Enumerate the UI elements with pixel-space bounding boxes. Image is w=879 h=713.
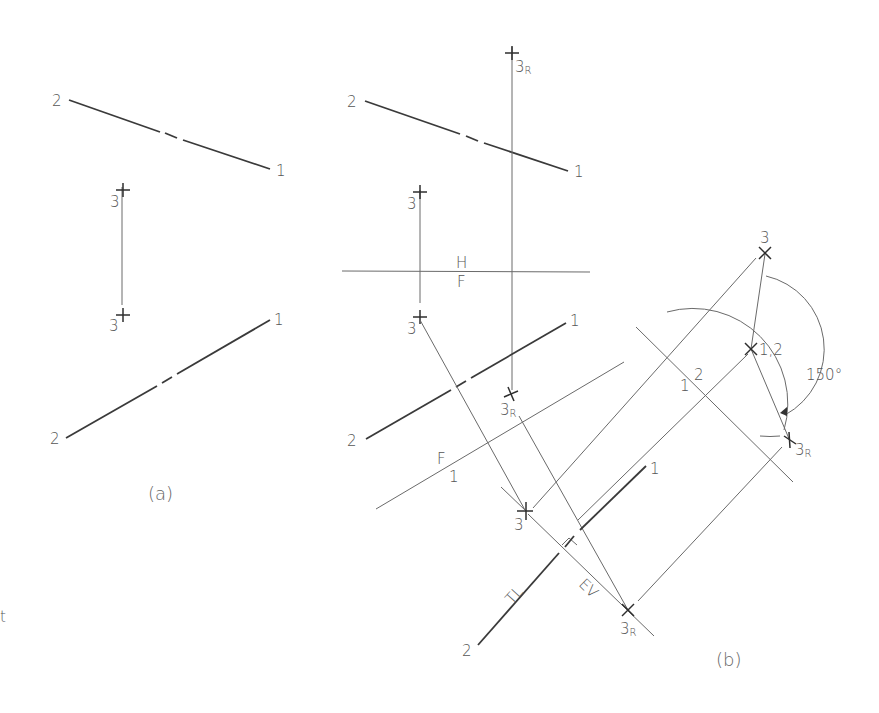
end-view-point3r-label: 3R (795, 441, 812, 459)
rotation-arc-tick (760, 436, 780, 437)
rotation-angle-label: 150° (806, 366, 842, 384)
stray-mark: t (0, 608, 6, 626)
aux-point3r-label: 3R (620, 620, 637, 638)
end-view: 3 1,2 3R 150° (667, 229, 842, 459)
rotation-arc-outer (667, 308, 788, 430)
view-a-point3-bottom-label: 3 (109, 317, 119, 335)
view-a-bottom-label-2: 2 (50, 430, 60, 448)
view-a-top-line: 2 1 (52, 92, 286, 180)
projector-aux12-to-end (578, 354, 748, 520)
view-b-point3-top-label: 3 (407, 195, 417, 213)
ev-line (528, 514, 654, 636)
fold-12-left-label: 1 (680, 377, 690, 395)
view-b-point3r-projector: 3R (505, 46, 532, 390)
view-a-top-label-2: 2 (52, 92, 62, 110)
fold-f1-lower-label: 1 (449, 468, 459, 486)
fold-12-right-label: 2 (694, 366, 704, 384)
caption-b: (b) (716, 649, 741, 670)
view-a-top-label-1: 1 (276, 162, 286, 180)
angle-arrow-icon (780, 407, 787, 416)
view-b: 2 1 3 3R H F 3 (342, 46, 842, 670)
view-b-point3r-top-label: 3R (515, 58, 532, 76)
view-b-point3r-front: 3R (500, 387, 518, 419)
view-b-front-line: 2 1 (347, 312, 580, 450)
view-b-top-line: 2 1 (347, 93, 584, 181)
ev-label: EV (575, 575, 602, 602)
view-b-top-label-2: 2 (347, 93, 357, 111)
view-a-point3: 3 3 (109, 183, 130, 335)
view-b-point3-top: 3 (407, 185, 427, 303)
view-b-point3-front-label: 3 (407, 320, 417, 338)
view-a-bottom-label-1: 1 (274, 311, 284, 329)
end-view-point3-label: 3 (760, 229, 770, 247)
fold-line-hf: H F (342, 254, 590, 291)
view-b-top-label-1: 1 (574, 163, 584, 181)
tl-label: TL (502, 583, 527, 608)
fold-hf-upper-label: H (456, 254, 467, 272)
end-view-point12-label: 1,2 (759, 341, 783, 359)
aux-point3r: 3R (620, 604, 637, 638)
fold-hf-lower-label: F (457, 273, 466, 291)
view-b-front-label-2: 2 (347, 432, 357, 450)
view-a-point3-top-label: 3 (110, 193, 120, 211)
fold-f1-upper-label: F (437, 450, 446, 468)
view-b-point3-front: 3 (407, 310, 427, 338)
aux-label-1: 1 (650, 460, 660, 478)
aux-label-2: 2 (462, 642, 472, 660)
view-a: 2 1 3 3 2 1 (a) (50, 92, 286, 504)
view-b-front-label-1: 1 (570, 312, 580, 330)
descriptive-geometry-figure: 2 1 3 3 2 1 (a) t 2 (0, 0, 879, 713)
view-a-bottom-line: 2 1 (50, 311, 284, 448)
view-b-point3r-front-label: 3R (500, 401, 517, 419)
aux-point3-label: 3 (514, 516, 524, 534)
projector-aux3-to-end (533, 258, 756, 508)
fold-line-f1: F 1 (376, 362, 624, 509)
projector-aux3r-to-end (638, 447, 782, 601)
caption-a: (a) (148, 483, 173, 504)
aux-point3: 3 (501, 487, 533, 534)
end-view-line-12-to-3r (751, 349, 790, 441)
